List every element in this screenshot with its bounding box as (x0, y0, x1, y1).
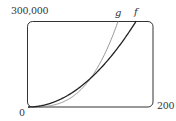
curve-f (28, 21, 136, 107)
x-axis-max-label: 200 (157, 101, 174, 111)
chart-plot (0, 0, 176, 121)
viewing-window-frame (28, 22, 154, 108)
y-axis-max-label: 300,000 (11, 6, 48, 16)
origin-label: 0 (19, 108, 25, 118)
curve-g-label: g (115, 8, 121, 18)
curve-f-label: f (134, 7, 138, 17)
